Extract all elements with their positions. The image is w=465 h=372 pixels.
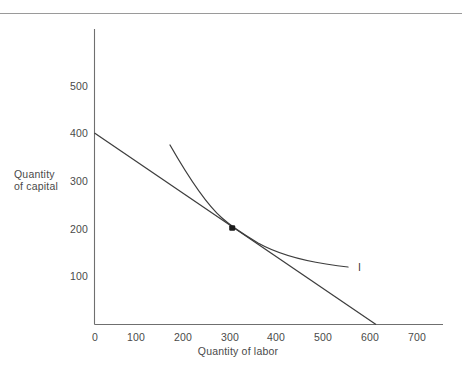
x-axis-title: Quantity of labor [168,346,308,358]
y-axis-title: Quantity of capital [14,169,74,192]
y-tick-label-500: 500 [58,80,88,92]
y-tick-label-200: 200 [58,223,88,235]
y-tick-label-100: 100 [58,270,88,282]
isoquant-curve-label: I [358,261,361,273]
y-axis-title-line1: Quantity [14,169,74,181]
tangency-point-marker [229,225,235,231]
y-tick-label-400: 400 [58,127,88,139]
x-tick-label-300: 300 [215,331,245,343]
y-axis-title-line2: of capital [14,181,74,193]
x-tick-label-400: 400 [261,331,291,343]
x-tick-label-0: 0 [84,331,106,343]
isoquant-curve [170,145,348,267]
x-tick-label-200: 200 [168,331,198,343]
x-tick-label-100: 100 [121,331,151,343]
x-tick-label-700: 700 [402,331,432,343]
x-tick-label-500: 500 [308,331,338,343]
x-tick-label-600: 600 [355,331,385,343]
figure-container: 500 400 300 200 100 Quantity of capital … [0,0,465,372]
